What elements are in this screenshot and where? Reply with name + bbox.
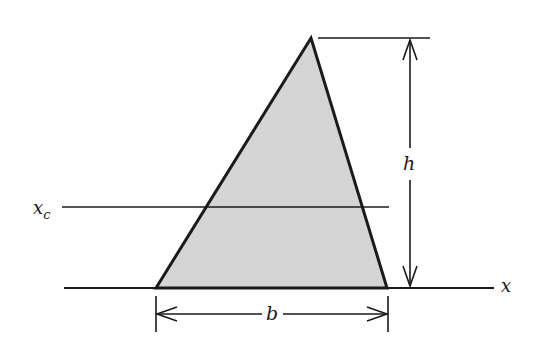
x-axis-label: x: [501, 275, 511, 296]
triangle-diagram: xc h b x: [0, 0, 540, 356]
base-label: b: [266, 302, 278, 324]
height-label: h: [403, 152, 415, 174]
centroid-axis-label: xc: [33, 197, 51, 222]
triangle-shape: [156, 38, 387, 288]
